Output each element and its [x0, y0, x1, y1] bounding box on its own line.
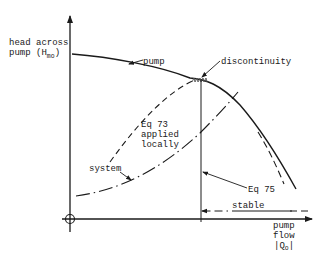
eq73-label-line1: Eq 73	[141, 120, 168, 130]
discontinuity-leader	[202, 61, 220, 77]
discontinuity-marker	[192, 78, 207, 82]
y-axis-label-line1: head across	[9, 38, 68, 48]
x-axis-label-line2: flow	[273, 231, 295, 241]
x-axis-label-line3: |Qo|	[274, 241, 294, 252]
eq73-label-line2: applied	[141, 130, 179, 140]
stable-label: stable	[232, 201, 264, 211]
pump-system-diagram: head across pump (Hmo) pump flow |Qo| pu…	[0, 0, 320, 259]
system-leader	[120, 172, 131, 180]
eq75-leader	[203, 172, 247, 188]
y-axis-label-line2: pump (Hmo)	[9, 48, 60, 60]
eq75-label: Eq 75	[248, 185, 275, 195]
eq73-label-line3: locally	[141, 140, 179, 150]
pump-label: pump	[143, 57, 165, 67]
x-axis-label-line1: pump	[273, 221, 295, 231]
system-label: system	[89, 164, 121, 174]
eq73-dashed-curve-right	[258, 132, 284, 184]
discontinuity-label: discontinuity	[221, 57, 292, 67]
